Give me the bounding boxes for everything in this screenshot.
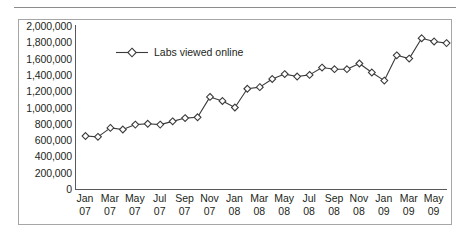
- data-point-marker: [182, 115, 189, 122]
- data-point-marker: [294, 73, 301, 80]
- data-point-marker: [269, 76, 276, 83]
- data-point-marker: [393, 52, 400, 59]
- x-axis-tick-label: May09: [417, 192, 451, 217]
- data-point-marker: [132, 121, 139, 128]
- data-point-marker: [219, 98, 226, 105]
- data-point-marker: [306, 72, 313, 79]
- x-tick-month: May: [417, 192, 451, 205]
- data-point-marker: [119, 126, 126, 133]
- chart-page: 0200,000400,000600,000800,0001,000,0001,…: [0, 0, 471, 240]
- data-point-marker: [418, 35, 425, 42]
- x-tick-year: 09: [417, 205, 451, 218]
- chart-legend: Labs viewed online: [115, 45, 243, 59]
- data-point-marker: [194, 114, 201, 121]
- top-divider-rule: [14, 7, 456, 8]
- data-point-marker: [331, 66, 338, 73]
- x-axis-tick-labels: Jan07Mar07May07Jul07Sep07Nov07Jan08Mar08…: [75, 192, 450, 224]
- data-point-marker: [144, 120, 151, 127]
- legend-label: Labs viewed online: [154, 47, 243, 58]
- data-point-marker: [157, 121, 164, 128]
- data-point-marker: [232, 104, 239, 111]
- data-point-marker: [381, 77, 388, 84]
- data-point-marker: [344, 66, 351, 73]
- data-point-marker: [82, 133, 89, 140]
- data-point-marker: [443, 40, 450, 47]
- data-point-marker: [431, 38, 438, 45]
- legend-marker-icon: [115, 47, 149, 58]
- data-point-marker: [256, 84, 263, 91]
- data-point-marker: [319, 64, 326, 71]
- data-point-marker: [406, 55, 413, 62]
- data-point-marker: [207, 94, 214, 101]
- data-point-marker: [244, 85, 251, 92]
- data-point-marker: [281, 71, 288, 78]
- chart-frame: 0200,000400,000600,000800,0001,000,0001,…: [18, 19, 452, 225]
- data-point-marker: [169, 118, 176, 125]
